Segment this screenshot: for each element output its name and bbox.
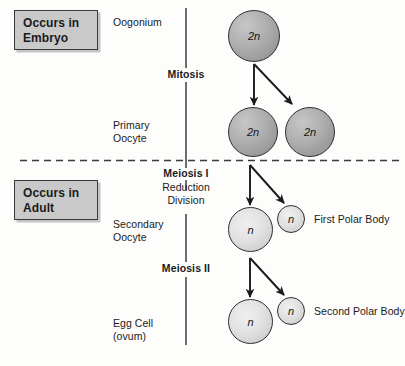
cell-second-polar-body: n (277, 297, 305, 325)
meiosis-one-arrows (250, 165, 284, 205)
label-first-polar-body: First Polar Body (314, 213, 390, 225)
stage-box-embryo-line2: Embryo (23, 31, 90, 46)
process-label-mitosis: Mitosis (168, 68, 205, 80)
caption-egg-cell: Egg Cell (ovum) (113, 317, 153, 342)
caption-secondary-oocyte-line1: Secondary (113, 218, 164, 231)
cell-oogonium-ploidy: 2n (248, 30, 260, 42)
cell-primary-oocyte-sister-ploidy: 2n (304, 126, 316, 138)
stage-box-adult-line1: Occurs in (23, 186, 90, 201)
process-label-meiosis-two: Meiosis II (162, 262, 210, 274)
process-label-mitosis-text: Mitosis (168, 68, 205, 80)
caption-oogonium: Oogonium (113, 16, 162, 29)
caption-primary-oocyte: Primary Oocyte (113, 119, 150, 144)
cell-primary-oocyte-sister: 2n (285, 107, 335, 157)
cell-primary-oocyte-ploidy: 2n (247, 126, 259, 138)
cell-egg-ovum-ploidy: n (247, 315, 253, 327)
oogenesis-diagram: Occurs in Embryo Occurs in Adult Oogoniu… (0, 0, 405, 366)
process-label-meiosis-one-sub1: Reduction (162, 181, 210, 194)
cell-oogonium: 2n (228, 10, 280, 62)
meiosis-two-arrows (250, 258, 284, 297)
caption-primary-oocyte-line1: Primary (113, 119, 150, 132)
cell-egg-ovum: n (228, 299, 273, 344)
cell-secondary-oocyte-ploidy: n (247, 223, 253, 235)
process-label-meiosis-one-text: Meiosis I (163, 167, 208, 179)
stage-box-adult: Occurs in Adult (14, 180, 98, 220)
caption-egg-cell-line1: Egg Cell (113, 317, 153, 330)
process-label-meiosis-two-text: Meiosis II (162, 262, 210, 274)
process-label-meiosis-one-sub2: Division (162, 194, 210, 207)
stage-box-embryo-line1: Occurs in (23, 16, 90, 31)
process-label-meiosis-one: Meiosis I Reduction Division (162, 167, 210, 206)
cell-second-polar-body-ploidy: n (288, 305, 294, 317)
stage-box-adult-line2: Adult (23, 201, 90, 216)
cell-secondary-oocyte: n (228, 207, 273, 252)
caption-secondary-oocyte-line2: Oocyte (113, 231, 164, 244)
mitosis-arrows (254, 64, 292, 105)
caption-egg-cell-line2: (ovum) (113, 330, 153, 343)
stage-box-embryo: Occurs in Embryo (14, 10, 98, 50)
cell-first-polar-body: n (277, 205, 305, 233)
caption-primary-oocyte-line2: Oocyte (113, 132, 150, 145)
label-second-polar-body: Second Polar Body (314, 305, 405, 317)
cell-primary-oocyte: 2n (228, 107, 278, 157)
caption-secondary-oocyte: Secondary Oocyte (113, 218, 164, 243)
caption-oogonium-line1: Oogonium (113, 16, 162, 29)
cell-first-polar-body-ploidy: n (288, 213, 294, 225)
